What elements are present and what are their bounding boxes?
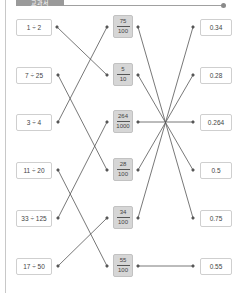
denominator: 1000 xyxy=(116,123,129,130)
fraction-bar xyxy=(117,265,130,266)
left-item[interactable]: 17 ÷ 50 xyxy=(16,258,52,275)
numerator: 55 xyxy=(120,257,127,264)
line-33div125-to-264over1000 xyxy=(58,122,107,218)
left-item[interactable]: 7 ÷ 25 xyxy=(16,67,52,84)
left-item[interactable]: 3 ÷ 4 xyxy=(16,114,52,131)
line-7div25-to-28over100 xyxy=(58,75,107,170)
numerator: 34 xyxy=(120,209,127,216)
numerator: 264 xyxy=(118,113,128,120)
fraction-item[interactable]: 5 10 xyxy=(113,63,133,86)
denominator: 100 xyxy=(118,267,128,274)
denominator: 10 xyxy=(120,76,127,83)
denominator: 100 xyxy=(118,219,128,226)
right-item[interactable]: 0.34 xyxy=(200,19,232,36)
left-item[interactable]: 11 ÷ 20 xyxy=(16,162,52,179)
right-item[interactable]: 0.28 xyxy=(200,67,232,84)
fraction-item[interactable]: 55 100 xyxy=(113,254,133,277)
denominator: 100 xyxy=(118,171,128,178)
fraction-item[interactable]: 28 100 xyxy=(113,158,133,181)
numerator: 28 xyxy=(120,161,127,168)
left-item[interactable]: 1 ÷ 2 xyxy=(16,19,52,36)
fraction-bar xyxy=(117,121,130,122)
right-item[interactable]: 0.5 xyxy=(200,162,232,179)
fraction-item[interactable]: 75 100 xyxy=(113,15,133,38)
left-item[interactable]: 33 ÷ 125 xyxy=(16,210,52,227)
line-1div2-to-5over10 xyxy=(57,27,107,75)
fraction-bar xyxy=(117,74,130,75)
line-17div50-to-34over100 xyxy=(58,218,107,266)
fraction-item[interactable]: 34 100 xyxy=(113,206,133,229)
line-11div20-to-55over100 xyxy=(58,170,107,266)
numerator: 5 xyxy=(121,66,124,73)
fraction-bar xyxy=(117,26,130,27)
line-3div4-to-75over100 xyxy=(58,27,107,122)
fraction-bar xyxy=(117,217,130,218)
denominator: 100 xyxy=(118,28,128,35)
right-item[interactable]: 0.55 xyxy=(200,258,232,275)
right-item[interactable]: 0.264 xyxy=(200,114,232,131)
fraction-bar xyxy=(117,169,130,170)
numerator: 75 xyxy=(120,18,127,25)
connection-lines xyxy=(0,0,235,293)
fraction-item[interactable]: 264 1000 xyxy=(113,110,133,133)
right-item[interactable]: 0.75 xyxy=(200,210,232,227)
